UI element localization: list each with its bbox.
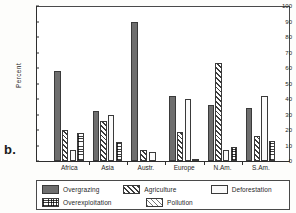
bar-europe-deforestation xyxy=(185,99,191,161)
x-group-separator xyxy=(127,161,128,165)
legend-label: Overexploitation xyxy=(63,199,112,206)
bar-austr-overgrazing xyxy=(131,22,139,162)
bars-plot-area xyxy=(37,6,290,161)
legend-swatch-agriculture-icon xyxy=(123,185,140,194)
bar-africa-overexploitation xyxy=(77,133,83,161)
bar-asia-overgrazing xyxy=(93,111,99,161)
bar-africa-overgrazing xyxy=(54,71,60,161)
bar-europe-overgrazing xyxy=(169,96,175,161)
x-axis-line xyxy=(36,161,290,162)
bar-asia-deforestation xyxy=(108,115,114,162)
bar-sam-deforestation xyxy=(261,96,267,161)
bar-nam-agriculture xyxy=(215,63,221,161)
bar-group xyxy=(54,6,84,161)
bar-europe-agriculture xyxy=(177,132,183,161)
x-tick-label: S.Am. xyxy=(252,164,270,171)
bar-nam-deforestation xyxy=(223,150,229,161)
x-group-separator xyxy=(165,161,166,165)
bar-nam-overexploitation xyxy=(231,147,237,161)
legend-label: Deforestation xyxy=(232,186,272,193)
chart-legend: OvergrazingAgricultureDeforestation Over… xyxy=(36,180,290,210)
bar-austr-agriculture xyxy=(140,150,148,161)
legend-item-deforestation: Deforestation xyxy=(206,183,289,196)
legend-swatch-overexploitation-icon xyxy=(42,198,59,207)
bar-group xyxy=(246,6,276,161)
bar-nam-overgrazing xyxy=(208,105,214,161)
bar-group xyxy=(208,6,238,161)
bar-austr-deforestation xyxy=(149,152,157,161)
bar-group xyxy=(93,6,123,161)
legend-label: Pollution xyxy=(167,199,193,206)
legend-row: OverexploitationPollution xyxy=(37,196,289,209)
legend-item-overexploitation: Overexploitation xyxy=(37,196,141,209)
bar-europe-pollution xyxy=(192,159,198,161)
x-tick-label: Africa xyxy=(61,164,78,171)
bar-sam-overexploitation xyxy=(269,141,275,161)
x-group-separator xyxy=(242,161,243,165)
x-tick-label: Austr. xyxy=(138,164,155,171)
figure-panel-b: b. Percent 0102030405060708090100 Africa… xyxy=(0,0,296,213)
legend-item-agriculture: Agriculture xyxy=(118,183,205,196)
legend-row: OvergrazingAgricultureDeforestation xyxy=(37,183,289,196)
x-group-separator xyxy=(89,161,90,165)
legend-swatch-deforestation-icon xyxy=(211,185,228,194)
bar-africa-deforestation xyxy=(70,150,76,161)
legend-label: Agriculture xyxy=(144,186,176,193)
bar-group xyxy=(169,6,199,161)
y-axis-title: Percent xyxy=(15,46,22,106)
panel-label: b. xyxy=(4,142,16,157)
bar-asia-overexploitation xyxy=(116,142,122,161)
x-tick-label: Asia xyxy=(101,164,114,171)
bar-sam-overgrazing xyxy=(246,108,252,161)
legend-item-overgrazing: Overgrazing xyxy=(37,183,118,196)
bar-asia-agriculture xyxy=(100,121,106,161)
legend-label: Overgrazing xyxy=(63,186,100,193)
x-tick-label: N.Am. xyxy=(214,164,232,171)
bar-sam-agriculture xyxy=(254,136,260,161)
bar-africa-agriculture xyxy=(62,130,68,161)
x-group-separator xyxy=(204,161,205,165)
legend-swatch-overgrazing-icon xyxy=(42,185,59,194)
legend-swatch-pollution-icon xyxy=(146,198,163,207)
bar-group xyxy=(131,6,161,161)
x-tick-label: Europe xyxy=(174,164,195,171)
legend-item-pollution: Pollution xyxy=(141,196,221,209)
